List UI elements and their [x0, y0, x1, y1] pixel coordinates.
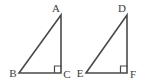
vertex-label-c: C — [63, 68, 70, 80]
vertex-label-b: B — [9, 67, 16, 79]
figure-canvas: A B C D E F — [0, 0, 149, 84]
vertex-label-f: F — [130, 68, 136, 80]
geometry-figure: A B C D E F — [0, 0, 149, 84]
vertex-label-a: A — [52, 2, 60, 14]
vertex-label-e: E — [77, 67, 84, 79]
vertex-label-d: D — [118, 2, 126, 14]
